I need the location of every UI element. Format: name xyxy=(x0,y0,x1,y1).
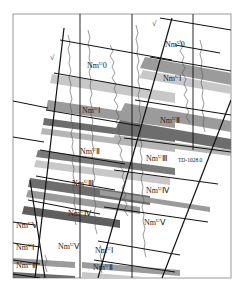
unit-label: NmUⅠ xyxy=(16,243,34,252)
unit-label: NmUⅢ xyxy=(146,154,168,163)
fault-mark-icon: √ xyxy=(152,19,157,28)
unit-label: NmUⅠ xyxy=(95,246,113,255)
unit-label: NmUⅣ xyxy=(68,209,92,218)
unit-label: NmU0 xyxy=(87,61,107,70)
unit-label: NmUⅡ xyxy=(93,263,113,272)
fault-mark-icon: √ xyxy=(50,53,55,62)
unit-label: NmUⅤ xyxy=(16,221,38,230)
unit-label: NmUⅢ xyxy=(72,179,94,188)
unit-label: NmUⅡ xyxy=(160,116,180,125)
total-depth-annotation: TD-1028.0 xyxy=(178,157,203,163)
unit-label: NmUⅡ xyxy=(16,261,36,270)
unit-label: NmUⅡ xyxy=(80,147,100,156)
unit-label: NmUⅠ xyxy=(163,74,181,83)
unit-label: NmUⅣ xyxy=(146,186,170,195)
unit-label: NmU0 xyxy=(165,40,185,49)
unit-label: NmUⅠ xyxy=(82,106,100,115)
geological-cross-section: √ √ NmU0 NmUⅠ NmUⅡ NmUⅢ NmUⅣ NmUⅤ NmU0 N… xyxy=(0,0,250,299)
unit-label: NmUⅤ xyxy=(144,218,166,227)
unit-label: NmUⅤ xyxy=(58,242,80,251)
